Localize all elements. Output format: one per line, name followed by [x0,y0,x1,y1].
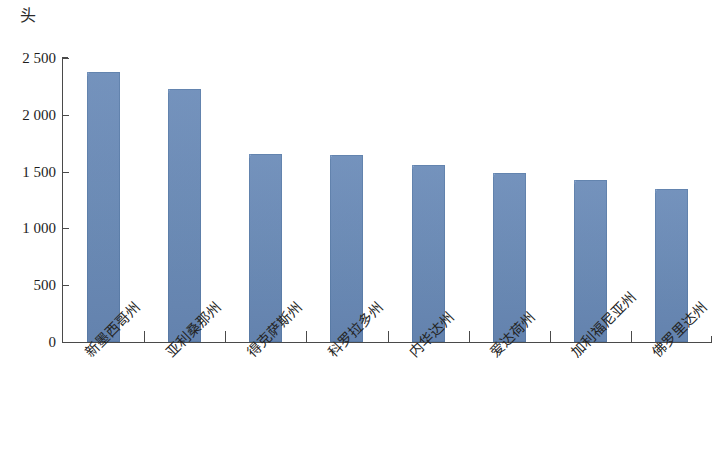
y-axis-tick-label: 0 [4,335,56,350]
bar [249,154,282,342]
y-axis-tick [63,342,69,343]
bar [87,72,120,342]
y-axis-tick-label: 1 500 [4,165,56,180]
y-axis-unit-label: 头 [20,6,36,26]
bar-chart: 头 05001 0001 5002 0002 500 新墨西哥州亚利桑那州得克萨… [0,0,715,459]
y-axis-tick-label: 2 000 [4,108,56,123]
x-axis-line [62,342,712,343]
y-axis-tick-label: 1 000 [4,221,56,236]
y-axis-tick-label: 2 500 [4,51,56,66]
bar [330,155,363,342]
y-axis-tick-label: 500 [4,278,56,293]
plot-area [63,58,712,342]
bar [168,89,201,342]
